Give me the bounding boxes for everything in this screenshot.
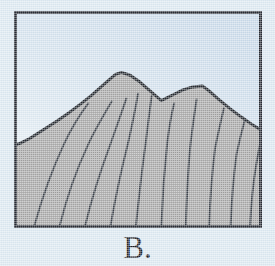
figure-caption: B. xyxy=(0,231,275,265)
mountain-illustration xyxy=(17,14,259,225)
figure-page: B. xyxy=(0,0,275,266)
figure-frame xyxy=(14,11,262,228)
